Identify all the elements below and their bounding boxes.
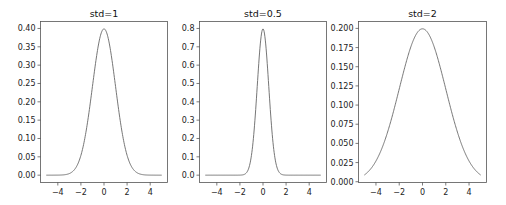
y-tick-label: 0.25 (18, 79, 36, 88)
y-tick-label: 0.7 (182, 43, 195, 52)
subplot-title: std=0.5 (244, 8, 282, 19)
x-tick-label: 4 (466, 188, 471, 197)
x-tick-label: 4 (307, 188, 312, 197)
x-tick-label: 2 (443, 188, 448, 197)
y-tick-label: 0.2 (182, 134, 195, 143)
subplot-std-1: std=1 −4−20240.000.050.100.150.200.250.3… (18, 8, 168, 197)
y-tick-label: 0.125 (331, 82, 354, 91)
pdf-curve (46, 29, 161, 175)
y-tick-label: 0.35 (18, 43, 36, 52)
y-tick-label: 0.150 (331, 63, 354, 72)
subplot-title: std=2 (408, 8, 437, 19)
y-tick-label: 0.025 (331, 159, 354, 168)
subplot-title: std=1 (90, 8, 119, 19)
y-tick-label: 0.3 (182, 116, 195, 125)
y-tick-label: 0.5 (182, 79, 195, 88)
y-tick-label: 0.00 (18, 171, 36, 180)
y-tick-label: 0.4 (182, 98, 195, 107)
y-tick-label: 0.6 (182, 61, 195, 70)
pdf-curve (364, 29, 480, 175)
x-tick-label: 0 (260, 188, 265, 197)
subplot-std-0.5: std=0.5 −4−20240.00.10.20.30.40.50.60.70… (182, 8, 327, 197)
y-tick-label: 0.1 (182, 153, 195, 162)
x-tick-label: −4 (370, 188, 382, 197)
subplot-std-2: std=2 −4−20240.0000.0250.0500.0750.1000.… (331, 8, 487, 197)
y-tick-label: 0.15 (18, 116, 36, 125)
y-tick-label: 0.05 (18, 153, 36, 162)
x-tick-label: −4 (211, 188, 223, 197)
y-tick-label: 0.0 (182, 171, 195, 180)
y-tick-label: 0.10 (18, 134, 36, 143)
y-tick-label: 0.8 (182, 24, 195, 33)
y-tick-label: 0.050 (331, 139, 354, 148)
x-tick-label: −2 (75, 188, 87, 197)
y-tick-label: 0.200 (331, 24, 354, 33)
pdf-curve (205, 29, 320, 175)
x-tick-label: 2 (284, 188, 289, 197)
axes-frame (200, 22, 327, 183)
y-tick-label: 0.000 (331, 178, 354, 187)
x-tick-label: −4 (52, 188, 64, 197)
x-tick-label: −2 (234, 188, 246, 197)
x-tick-label: −2 (393, 188, 405, 197)
y-tick-label: 0.175 (331, 44, 354, 53)
x-tick-label: 2 (125, 188, 130, 197)
y-tick-label: 0.30 (18, 61, 36, 70)
y-tick-label: 0.100 (331, 101, 354, 110)
x-tick-label: 0 (101, 188, 106, 197)
y-tick-label: 0.075 (331, 120, 354, 129)
axes-frame (41, 22, 168, 183)
y-tick-label: 0.20 (18, 98, 36, 107)
x-tick-label: 4 (148, 188, 153, 197)
figure: std=1 −4−20240.000.050.100.150.200.250.3… (0, 0, 506, 205)
y-tick-label: 0.40 (18, 24, 36, 33)
x-tick-label: 0 (420, 188, 425, 197)
